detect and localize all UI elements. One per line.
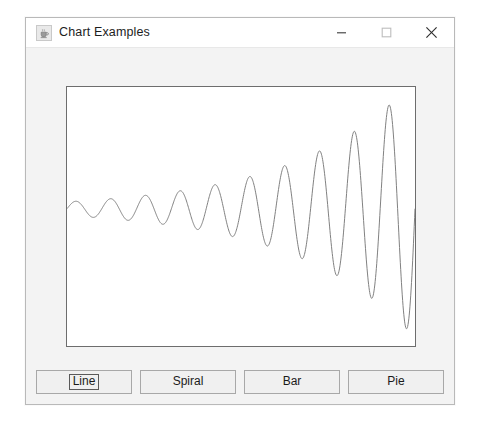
java-coffee-cup-icon — [36, 25, 52, 41]
maximize-button[interactable] — [364, 18, 409, 47]
line-chart-button[interactable]: Line — [36, 370, 132, 394]
content-panel: Line Spiral Bar Pie — [26, 48, 454, 404]
chart-type-button-bar: Line Spiral Bar Pie — [36, 370, 444, 394]
chart-plot-area — [66, 86, 416, 347]
line-chart-button-label: Line — [69, 374, 100, 389]
application-window: Chart Examples — [25, 17, 455, 405]
window-title: Chart Examples — [59, 26, 319, 39]
minimize-button[interactable] — [319, 18, 364, 47]
line-chart — [67, 87, 415, 346]
bar-chart-button-label: Bar — [279, 374, 306, 389]
bar-chart-button[interactable]: Bar — [244, 370, 340, 394]
spiral-chart-button[interactable]: Spiral — [140, 370, 236, 394]
pie-chart-button[interactable]: Pie — [348, 370, 444, 394]
spiral-chart-button-label: Spiral — [169, 374, 208, 389]
pie-chart-button-label: Pie — [383, 374, 408, 389]
title-bar: Chart Examples — [26, 18, 454, 48]
chart-line-series — [67, 105, 415, 329]
close-button[interactable] — [409, 18, 454, 47]
